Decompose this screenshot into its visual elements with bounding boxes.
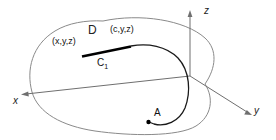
segment-start-point-label: (x,y,z) (52, 37, 76, 46)
segment-end-point-label: (c,y,z) (110, 25, 134, 34)
point-a-marker (146, 120, 150, 124)
segment-c1-thick (82, 47, 131, 57)
math-diagram-figure: D (x,y,z) (c,y,z) C1 A x y z (0, 0, 276, 140)
y-axis-line (190, 76, 247, 112)
segment-c1-label-subscript: 1 (104, 63, 108, 70)
z-axis-label: z (204, 6, 209, 16)
x-axis-arrowhead (21, 92, 29, 97)
x-axis-label: x (13, 96, 18, 106)
y-axis-label: y (254, 106, 259, 116)
segment-c1-label: C1 (97, 58, 108, 70)
diagram-canvas (0, 0, 276, 140)
x-axis-line (26, 76, 190, 94)
point-a-label: A (154, 108, 161, 118)
region-d-label: D (88, 24, 97, 36)
z-axis-arrowhead (188, 10, 193, 17)
